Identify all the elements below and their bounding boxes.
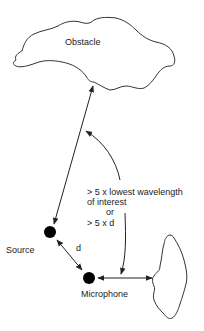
distance-annotation: > 5 x lowest wavelength of interest or >…: [87, 187, 183, 228]
annotation-pointer-wall: [121, 213, 126, 274]
distance-d-label: d: [76, 243, 81, 253]
annotation-line-3: or: [106, 207, 114, 217]
source-label: Source: [6, 245, 35, 255]
microphone-label: Microphone: [81, 289, 128, 299]
annotation-line-2: of interest: [87, 197, 127, 207]
annotation-line-1: > 5 x lowest wavelength: [87, 187, 183, 197]
microphone-dot: [83, 272, 95, 284]
annotation-pointer-obstacle: [86, 131, 120, 180]
annotation-line-4: > 5 x d: [87, 218, 114, 228]
source-dot: [44, 226, 56, 238]
wall-obstacle-shape: [153, 235, 187, 319]
diagram-canvas: Obstacle Source Microphone d > 5 x lowes…: [0, 0, 204, 331]
obstacle-label: Obstacle: [65, 37, 101, 47]
obstacle-shape: [13, 17, 174, 90]
